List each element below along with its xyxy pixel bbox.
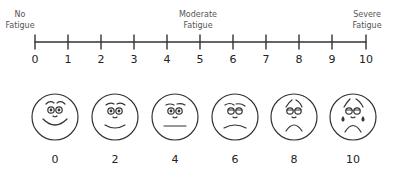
face-very-happy-icon [32,94,78,140]
face-label-0: 0 [43,153,67,166]
face-label-2: 2 [103,153,127,166]
face-sad-icon [212,94,258,140]
tick-label-0: 0 [25,53,45,66]
tick-label-7: 7 [256,53,276,66]
face-label-10: 10 [341,153,365,166]
tick-label-10: 10 [356,53,376,66]
tick-label-2: 2 [91,53,111,66]
tick-label-5: 5 [190,53,210,66]
tick-label-9: 9 [322,53,342,66]
face-label-8: 8 [282,153,306,166]
face-happy-icon [92,94,138,140]
tick-label-8: 8 [289,53,309,66]
face-neutral-icon [152,94,198,140]
fatigue-scale: No Fatigue Moderate Fatigue Severe Fatig… [0,0,398,177]
number-line [35,35,366,49]
tick-label-6: 6 [223,53,243,66]
scale-drawing [0,0,398,177]
tick-label-1: 1 [58,53,78,66]
tick-label-3: 3 [124,53,144,66]
face-crying-icon [330,94,376,140]
tick-label-4: 4 [157,53,177,66]
face-label-6: 6 [223,153,247,166]
face-label-4: 4 [163,153,187,166]
face-very-sad-icon [271,94,317,140]
